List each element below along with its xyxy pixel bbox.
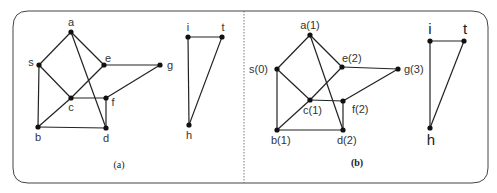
node-label-s: s <box>28 56 34 68</box>
edge-e-c <box>71 65 104 98</box>
node-a <box>307 32 312 37</box>
node-label-a: a <box>68 16 75 28</box>
node-h <box>427 125 432 130</box>
edge-c-b <box>38 98 71 127</box>
node-label-t: t <box>463 20 468 37</box>
node-label-b: b(1) <box>271 134 291 146</box>
edge-s-b <box>38 65 39 127</box>
node-label-b: b <box>35 131 41 143</box>
edge-t-h <box>430 41 464 128</box>
node-label-f: f <box>111 96 115 108</box>
node-label-s: s(0) <box>249 63 268 75</box>
edge-e-c <box>310 67 342 100</box>
node-a <box>68 29 73 34</box>
graph-figure: asegcfbdith(a) a(1)s(0)e(2)g(3)c(1)f(2)b… <box>0 0 497 193</box>
node-c <box>68 95 73 100</box>
node-i <box>427 38 432 43</box>
node-d <box>103 125 108 130</box>
edge-a-e <box>310 35 342 67</box>
edge-a-s <box>39 32 71 65</box>
edge-t-h <box>189 37 222 125</box>
node-label-i: i <box>187 21 189 33</box>
node-label-d: d <box>103 132 109 144</box>
node-label-h: h <box>427 131 435 148</box>
node-label-e: e <box>105 52 111 64</box>
node-s <box>36 62 41 67</box>
edge-b-d <box>38 127 106 128</box>
node-label-c: c <box>68 101 74 113</box>
edge-s-c <box>277 69 310 100</box>
node-f <box>340 98 345 103</box>
panel-caption-a: (a) <box>113 159 124 171</box>
node-t <box>461 38 466 43</box>
edge-f-g <box>106 65 160 98</box>
node-label-t: t <box>221 21 224 33</box>
edge-f-g <box>343 69 398 101</box>
edge-c-f <box>310 100 343 101</box>
panel-a-graph: asegcfbdith(a) <box>28 16 224 171</box>
node-e <box>339 64 344 69</box>
node-c <box>307 97 312 102</box>
node-label-f: f(2) <box>352 103 369 115</box>
figure-frame <box>13 11 488 183</box>
panel-caption-b: (b) <box>351 157 363 169</box>
edge-i-h <box>188 37 189 125</box>
edge-a-s <box>277 35 310 69</box>
node-d <box>340 127 345 132</box>
edge-a-e <box>71 32 104 65</box>
node-label-g: g(3) <box>404 63 424 75</box>
node-label-i: i <box>428 20 431 37</box>
node-g <box>395 66 400 71</box>
node-g <box>157 62 162 67</box>
node-b <box>274 127 279 132</box>
node-s <box>274 66 279 71</box>
edge-e-g <box>342 67 398 69</box>
panel-b-graph: a(1)s(0)e(2)g(3)c(1)f(2)b(1)d(2)ith(b) <box>249 19 468 169</box>
node-t <box>219 34 224 39</box>
node-b <box>35 124 40 129</box>
node-label-g: g <box>167 59 173 71</box>
node-label-c: c(1) <box>303 104 322 116</box>
node-label-h: h <box>186 129 192 141</box>
node-f <box>103 95 108 100</box>
node-h <box>186 122 191 127</box>
node-label-e: e(2) <box>342 52 362 64</box>
node-label-d: d(2) <box>337 134 357 146</box>
node-label-a: a(1) <box>300 19 320 31</box>
edge-s-c <box>39 65 71 98</box>
node-i <box>185 34 190 39</box>
